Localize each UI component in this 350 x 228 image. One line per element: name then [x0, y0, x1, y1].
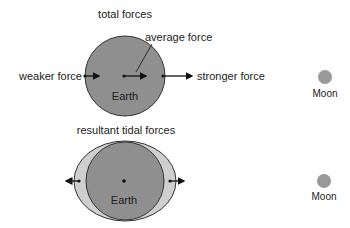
moon-label: Moon: [311, 191, 336, 202]
tidal-forces-title: resultant tidal forces: [77, 124, 176, 136]
center-dot: [122, 179, 126, 183]
tidal-forces-diagram: total forces Earth average force weaker …: [0, 0, 350, 228]
average-force-label: average force: [145, 31, 212, 43]
moon-circle: [318, 70, 332, 84]
total-forces-panel: total forces Earth average force weaker …: [18, 8, 337, 116]
moon-label: Moon: [312, 88, 337, 99]
total-forces-title: total forces: [98, 8, 152, 20]
stronger-force-label: stronger force: [197, 70, 265, 82]
moon-circle: [317, 174, 331, 188]
weaker-force-label: weaker force: [18, 70, 82, 82]
tidal-forces-panel: resultant tidal forces Earth Moon: [66, 124, 337, 221]
earth-label: Earth: [112, 90, 138, 102]
earth-label: Earth: [111, 194, 137, 206]
